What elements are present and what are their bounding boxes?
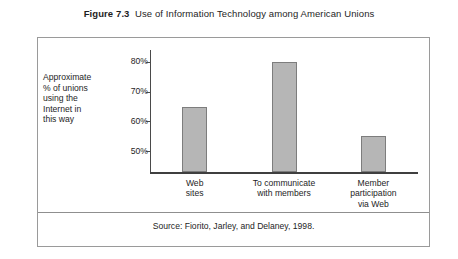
y-axis-tick-mark [146,151,151,152]
bar [361,136,386,172]
source-note: Source: Fiorito, Jarley, and Delaney, 19… [37,221,430,231]
figure-number: Figure 7.3 [84,8,130,19]
x-axis-label-line: participation [318,188,428,198]
y-axis-tick-label: 50% [122,147,148,156]
y-axis-caption-line-3: using the [43,93,119,104]
x-axis-label-group: WebsitesTo communicatewith membersMember… [122,178,418,208]
figure-title-text: Use of Information Technology among Amer… [135,8,374,19]
y-axis-caption-line-2: % of unions [43,83,119,94]
y-axis-tick-label: 70% [122,87,148,96]
y-axis-tick-mark [146,92,151,93]
figure-container: Figure 7.3 Use of Information Technology… [0,0,458,259]
y-axis-caption-line-4: Internet in [43,104,119,115]
y-axis-caption: Approximate % of unions using the Intern… [43,72,119,125]
x-axis-label-line: via Web [318,199,428,209]
y-axis-caption-line-5: this way [43,114,119,125]
source-divider [38,212,429,213]
x-axis-label-line: Member [318,178,428,188]
y-axis-caption-line-1: Approximate [43,72,119,83]
x-axis-line [150,172,418,174]
bar [182,107,207,172]
bar [272,62,297,172]
y-axis-tick-mark [146,62,151,63]
y-axis-tick-label: 60% [122,117,148,126]
figure-caption: Figure 7.3 Use of Information Technology… [0,8,458,19]
y-axis-line [150,50,151,173]
y-axis-tick-label: 80% [122,57,148,66]
x-axis-label: Memberparticipationvia Web [318,178,428,209]
plot-area: 50%60%70%80% [122,50,418,174]
y-axis-tick-mark [146,121,151,122]
